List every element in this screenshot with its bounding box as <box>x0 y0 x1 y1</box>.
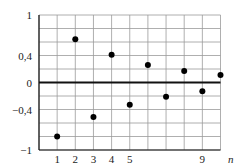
y-tick-labels: 10,40−0,4−1 <box>12 9 32 156</box>
data-point <box>218 72 224 78</box>
x-tick-labels: 123459 <box>54 153 205 165</box>
x-tick-label: 2 <box>73 153 79 165</box>
y-tick-label: −1 <box>20 144 32 156</box>
y-tick-label: 0,4 <box>18 50 32 62</box>
sequence-scatter-chart: 10,40−0,4−1 123459 n <box>0 0 245 168</box>
data-point <box>181 68 187 74</box>
data-point <box>163 94 169 100</box>
data-point <box>90 114 96 120</box>
data-point <box>199 88 205 94</box>
data-point <box>72 36 78 42</box>
data-points <box>54 36 223 139</box>
y-tick-label: 1 <box>27 9 33 21</box>
x-tick-label: 4 <box>109 153 115 165</box>
data-point <box>127 102 133 108</box>
data-point <box>109 52 115 58</box>
x-tick-label: 1 <box>54 153 60 165</box>
data-point <box>145 62 151 68</box>
y-tick-label: 0 <box>27 77 33 89</box>
data-point <box>54 134 60 140</box>
x-tick-label: 3 <box>91 153 97 165</box>
x-axis-label: n <box>228 153 234 165</box>
x-tick-label: 5 <box>127 153 133 165</box>
x-tick-label: 9 <box>200 153 206 165</box>
y-tick-label: −0,4 <box>12 104 32 116</box>
